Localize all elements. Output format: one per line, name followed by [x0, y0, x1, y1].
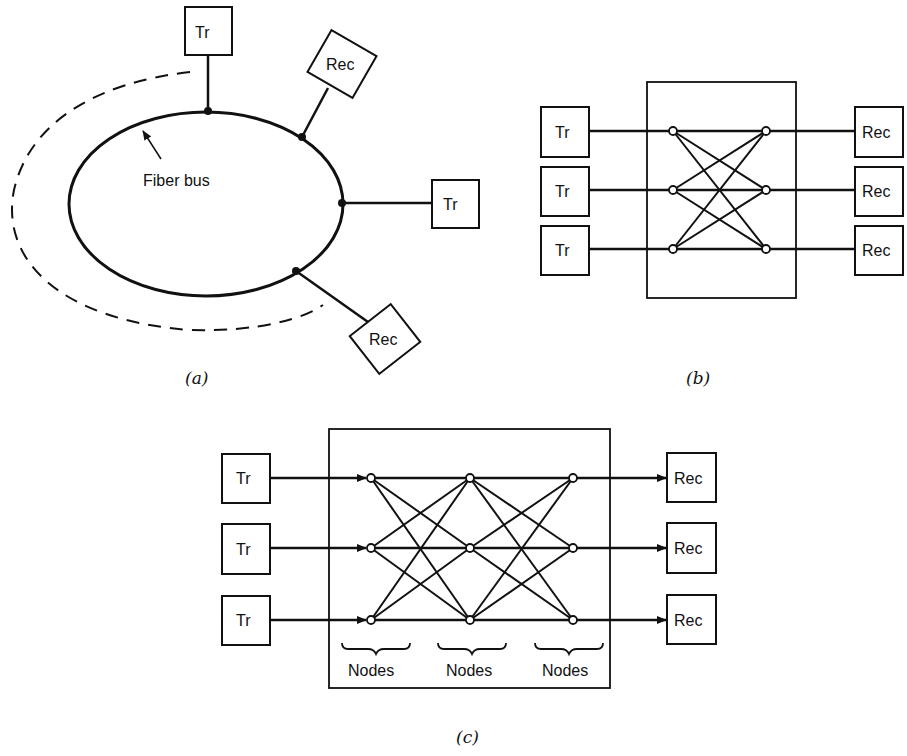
receiver-label: Rec [862, 183, 890, 200]
transmitter-label: Tr [555, 183, 570, 200]
panel-b-caption: (b) [686, 368, 710, 388]
node-group-label: Nodes [446, 662, 492, 679]
receiver-label: Rec [674, 470, 702, 487]
panel-b-star-coupler: Tr Tr Tr Rec Rec Rec (b) [541, 82, 903, 388]
node-group-label: Nodes [542, 662, 588, 679]
panel-c-multistage-network: Nodes Nodes Nodes Tr Tr Tr Rec Rec Rec (… [222, 429, 716, 747]
transmitter-label: Tr [236, 470, 251, 487]
transmitter-label: Tr [555, 242, 570, 259]
receiver-label: Rec [862, 124, 890, 141]
tap-node [292, 267, 300, 275]
receiver-label: Rec [862, 242, 890, 259]
station-label: Tr [443, 196, 458, 213]
station-label: Tr [195, 24, 210, 41]
fiber-bus-label: Fiber bus [143, 172, 210, 189]
tap-node [338, 199, 346, 207]
node-group-label: Nodes [348, 662, 394, 679]
receiver-label: Rec [674, 612, 702, 629]
transmitter-label: Tr [236, 612, 251, 629]
panel-a-fiber-bus: Fiber bus Tr Rec Tr Rec (a) [12, 7, 479, 388]
panel-c-caption: (c) [456, 727, 479, 747]
station-label: Rec [326, 56, 354, 73]
panel-a-caption: (a) [185, 368, 208, 388]
receiver-label: Rec [674, 540, 702, 557]
tap-node [298, 133, 306, 141]
transmitter-label: Tr [555, 124, 570, 141]
station-label: Rec [369, 331, 397, 348]
diagram-canvas: Fiber bus Tr Rec Tr Rec (a) [0, 0, 907, 756]
transmitter-label: Tr [236, 541, 251, 558]
station-rec-lower: Rec [350, 304, 421, 374]
tap-node [204, 107, 212, 115]
station-rec-upper: Rec [307, 30, 376, 98]
node-group-braces [342, 643, 603, 654]
bus-label-pointer [143, 131, 161, 159]
